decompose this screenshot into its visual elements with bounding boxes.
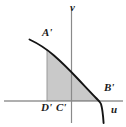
u-axis-label: u	[111, 104, 117, 115]
point-label-a-prime: A'	[42, 27, 52, 38]
point-label-b-prime: B'	[104, 82, 114, 93]
point-label-c-prime: C'	[56, 102, 66, 113]
point-label-d-prime: D'	[41, 102, 52, 113]
figure-canvas: v u A' B' D' C'	[0, 0, 126, 127]
v-axis-label: v	[70, 2, 75, 13]
